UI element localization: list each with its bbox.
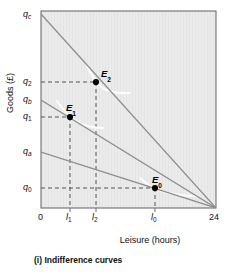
xtick-label-l2: l2 — [92, 212, 98, 222]
xtick-label-24: 24 — [209, 212, 219, 222]
x-axis-title: Leisure (hours) — [60, 235, 240, 245]
ytick-label-qb: qb — [23, 94, 32, 104]
figure-caption: (i) Indifference curves — [34, 255, 122, 265]
xtick-label-l1: l1 — [66, 212, 72, 222]
ytick-label-qc: qc — [23, 9, 31, 19]
ytick-label-qa: qa — [23, 146, 32, 156]
chart-canvas — [0, 0, 245, 275]
point-label-e2: E2 — [101, 68, 111, 81]
ytick-label-q0: q0 — [23, 182, 32, 192]
y-axis-title: Goods (£) — [5, 61, 15, 125]
point-e2 — [93, 79, 99, 85]
point-label-e0: E0 — [152, 174, 162, 187]
point-label-e1: E1 — [66, 102, 76, 115]
xtick-label-0: 0 — [38, 212, 43, 222]
ytick-label-q2: q2 — [23, 76, 32, 86]
ytick-label-q1: q1 — [23, 111, 32, 121]
figure-indifference-curves: qc q2 qb q1 qa q0 0 l1 l2 l0 24 E2 E1 E0… — [0, 0, 245, 275]
xtick-label-l0: l0 — [151, 212, 157, 222]
